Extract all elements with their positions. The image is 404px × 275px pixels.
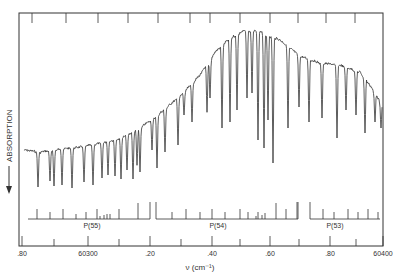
branch-label: P(53)	[326, 222, 343, 230]
spectrum-line	[24, 30, 382, 188]
x-tick-label: .20	[145, 250, 155, 257]
branch-p55: P(55)	[28, 203, 150, 230]
x-tick-label: .40	[207, 250, 217, 257]
y-axis-label: ABSORPTION	[5, 109, 14, 162]
x-tick-label: .80	[325, 250, 335, 257]
plot-frame	[19, 13, 383, 246]
branch-p54: P(54)	[156, 202, 298, 230]
branch-label: P(54)	[209, 222, 226, 230]
branch-p53: P(53)	[310, 209, 380, 230]
x-tick-label: 60400	[373, 250, 393, 257]
x-axis-label: ν (cm⁻¹)	[186, 263, 215, 272]
y-axis-label-group: ABSORPTION	[2, 86, 16, 196]
p-branch-markers: P(55)P(54)P(53)	[28, 202, 380, 230]
x-tick-label: .60	[265, 250, 275, 257]
spectrum-trace	[24, 30, 382, 188]
branch-label: P(55)	[83, 222, 100, 230]
down-arrow-icon	[6, 166, 12, 194]
absorption-spectrum-chart: P(55)P(54)P(53) .8060300.20.40.60.806040…	[0, 0, 404, 275]
frame-border	[19, 13, 383, 246]
x-tick-label: .80	[17, 250, 27, 257]
x-tick-label: 60300	[78, 250, 98, 257]
top-axis-ticks	[32, 13, 355, 23]
